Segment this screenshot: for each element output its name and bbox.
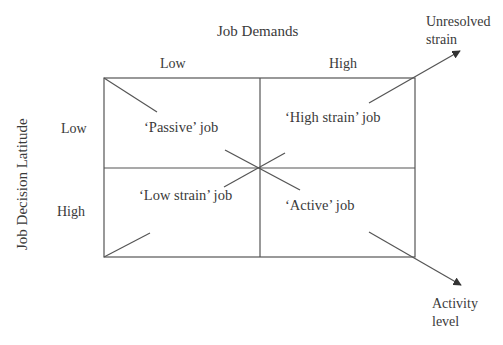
quadrant-active-job: ‘Active’ job	[285, 197, 354, 214]
diagonal-center-strain	[225, 150, 300, 190]
activity-level-label-line2: level	[432, 313, 459, 330]
x-axis-level-low: Low	[160, 55, 186, 72]
y-axis-title: Job Decision Latitude	[14, 118, 31, 250]
x-axis-level-high: High	[329, 55, 357, 72]
diagonal-top-left	[104, 78, 157, 112]
quadrant-high-strain-job: ‘High strain’ job	[285, 109, 381, 126]
unresolved-strain-label-line1: Unresolved	[426, 13, 491, 30]
diagonal-center-activity	[224, 153, 285, 187]
y-axis-level-low: Low	[61, 120, 87, 137]
unresolved-strain-label-line2: strain	[426, 31, 457, 48]
diagram-canvas	[0, 0, 503, 345]
x-axis-title: Job Demands	[217, 23, 298, 40]
diagonal-bottom-left	[104, 233, 150, 257]
y-axis-level-high: High	[57, 203, 85, 220]
activity-level-label-line1: Activity	[432, 295, 478, 312]
quadrant-passive-job: ‘Passive’ job	[144, 119, 218, 136]
quadrant-low-strain-job: ‘Low strain’ job	[139, 187, 232, 204]
